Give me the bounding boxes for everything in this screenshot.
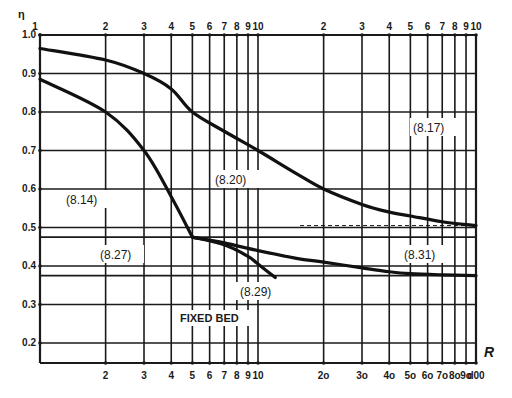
x-tick-bottom: 3o xyxy=(356,370,368,381)
x-tick-bottom: 4 xyxy=(168,370,174,381)
x-tick-top: 6 xyxy=(207,21,213,32)
x-tick-bottom: 7 xyxy=(221,370,227,381)
x-tick-top: 2 xyxy=(321,21,327,32)
label-8-17: (8.17) xyxy=(413,121,444,135)
x-axis-label-r: R xyxy=(484,344,495,360)
y-tick: 0.9 xyxy=(22,68,36,79)
label-fixed-bed: FIXED BED xyxy=(180,312,239,324)
x-tick-bottom: 9 xyxy=(245,370,251,381)
x-tick-bottom: 3 xyxy=(141,370,147,381)
x-tick-bottom: 6 xyxy=(207,370,213,381)
x-tick-top: 7 xyxy=(439,21,445,32)
y-axis-label-eta: η xyxy=(18,8,25,20)
x-tick-bottom: d00 xyxy=(467,370,485,381)
x-tick-bottom: 10 xyxy=(252,370,264,381)
x-tick-bottom: 2 xyxy=(103,370,109,381)
x-tick-top: 10 xyxy=(470,21,482,32)
x-tick-top: 8 xyxy=(452,21,458,32)
x-tick-top: 6 xyxy=(425,21,431,32)
curve-8-29 xyxy=(192,237,275,277)
efficiency-chart: 12345678910234567891023456789102o3o4o5o6… xyxy=(0,0,512,398)
x-tick-bottom: 5 xyxy=(190,370,196,381)
x-tick-bottom: 8 xyxy=(234,370,240,381)
x-tick-top: 7 xyxy=(221,21,227,32)
x-tick-top: 9 xyxy=(463,21,469,32)
label-8-14: (8.14) xyxy=(66,193,97,207)
label-8-27: (8.27) xyxy=(100,248,131,262)
x-tick-top: 5 xyxy=(190,21,196,32)
label-8-20: (8.20) xyxy=(215,173,246,187)
x-tick-top: 3 xyxy=(141,21,147,32)
x-tick-bottom: 4o xyxy=(383,370,395,381)
x-tick-top: 9 xyxy=(245,21,251,32)
y-tick: 0.7 xyxy=(22,145,36,156)
y-tick: 0.3 xyxy=(22,299,36,310)
y-tick: 0.2 xyxy=(22,337,36,348)
y-tick: 0.6 xyxy=(22,183,36,194)
x-tick-bottom: 5o xyxy=(405,370,417,381)
y-tick: 0.8 xyxy=(22,106,36,117)
x-tick-bottom: 8o xyxy=(449,370,461,381)
curve-8-14 xyxy=(40,79,192,237)
x-tick-top: 10 xyxy=(252,21,264,32)
x-tick-top: 4 xyxy=(168,21,174,32)
x-tick-top: 4 xyxy=(386,21,392,32)
y-tick: 0.4 xyxy=(22,260,36,271)
x-tick-top: 3 xyxy=(359,21,365,32)
x-tick-top: 5 xyxy=(408,21,414,32)
label-8-29: (8.29) xyxy=(240,285,271,299)
y-tick: 1.0 xyxy=(22,29,36,40)
x-tick-bottom: 7o xyxy=(436,370,448,381)
x-tick-top: 2 xyxy=(103,21,109,32)
x-tick-bottom: 6o xyxy=(422,370,434,381)
y-tick: 0.5 xyxy=(22,222,36,233)
label-8-31: (8.31) xyxy=(404,248,435,262)
x-tick-top: 8 xyxy=(234,21,240,32)
x-tick-bottom: 2o xyxy=(318,370,330,381)
